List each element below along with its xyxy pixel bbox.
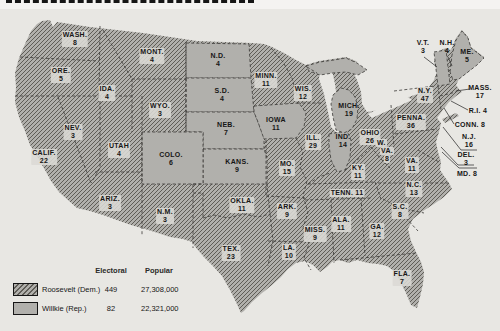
legend-electoral-willkie: 82 [95, 304, 127, 313]
legend-label-willkie: Willkie (Rep.) [42, 304, 87, 313]
legend-popular-willkie: 22,321,000 [141, 304, 179, 313]
legend: Electoral Popular Roosevelt (Dem.) 449 2… [0, 0, 500, 331]
legend-swatch-willkie [13, 302, 38, 315]
legend-header-electoral: Electoral [85, 266, 137, 275]
legend-electoral-roosevelt: 449 [95, 285, 127, 294]
legend-label-roosevelt: Roosevelt (Dem.) [42, 285, 100, 294]
legend-header-popular: Popular [135, 266, 183, 275]
legend-popular-roosevelt: 27,308,000 [141, 285, 179, 294]
legend-swatch-roosevelt [13, 283, 38, 296]
election-map-figure: WASH.8ORE.5CALIF.22NEV.3IDA.4MONT.4WYO.3… [0, 0, 500, 331]
